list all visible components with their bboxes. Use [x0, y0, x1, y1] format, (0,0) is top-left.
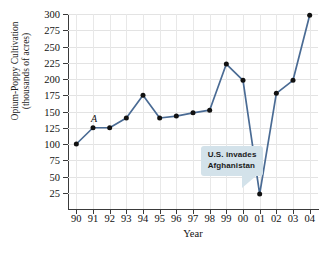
- x-axis-tick-label: 94: [138, 213, 149, 224]
- x-axis-tick-label: 03: [288, 213, 299, 224]
- us-invades-callout: U.S. invades Afghanistan: [201, 146, 264, 176]
- data-point: [141, 93, 146, 98]
- y-axis-tick-label: 100: [44, 139, 60, 150]
- y-axis-title: Opium-Poppy Cultivation (thousands of ac…: [10, 0, 42, 161]
- callout-line2: Afghanistan: [208, 161, 257, 172]
- x-axis-tick-label: 93: [121, 213, 132, 224]
- y-axis-tick-label: 125: [44, 122, 60, 133]
- x-axis-tick-label: 99: [221, 213, 232, 224]
- y-axis-tick-label: 175: [44, 90, 60, 101]
- data-point: [224, 62, 229, 67]
- data-point: [157, 116, 162, 121]
- x-axis-tick-label: 97: [188, 213, 199, 224]
- data-point: [291, 78, 296, 83]
- x-axis-tick-label: 01: [254, 213, 265, 224]
- y-axis-tick-label: 150: [44, 106, 60, 117]
- data-point: [124, 116, 129, 121]
- data-point: [257, 192, 262, 197]
- x-axis-tick-label: 96: [171, 213, 182, 224]
- x-axis-tick-label: 98: [204, 213, 215, 224]
- y-axis-title-line2: (thousands of acres): [21, 0, 32, 161]
- series-markers: [74, 13, 312, 197]
- y-axis-tick-label: 250: [44, 41, 60, 52]
- plot-area: 255075100125150175200225250275300 909192…: [68, 14, 318, 209]
- callout-line1: U.S. invades: [208, 150, 257, 161]
- data-point: [91, 125, 96, 130]
- y-axis-title-line1: Opium-Poppy Cultivation: [10, 22, 20, 121]
- y-axis-tick-label: 25: [50, 187, 61, 198]
- data-point: [241, 78, 246, 83]
- point-label-a: A: [91, 113, 97, 124]
- y-axis-tick-label: 50: [50, 171, 61, 182]
- data-point: [174, 114, 179, 119]
- data-point: [107, 125, 112, 130]
- y-axis-tick-label: 275: [44, 25, 60, 36]
- data-point: [274, 91, 279, 96]
- data-series: [68, 14, 318, 209]
- y-axis-tick-label: 200: [44, 74, 60, 85]
- series-line: [76, 15, 309, 194]
- x-axis-tick-label: 00: [238, 213, 249, 224]
- callout-tail: [242, 176, 256, 188]
- data-point: [74, 142, 79, 147]
- x-axis-tick-label: 90: [71, 213, 82, 224]
- data-point: [307, 13, 312, 18]
- x-axis-tick-label: 95: [154, 213, 165, 224]
- data-point: [191, 110, 196, 115]
- x-axis-tick-label: 91: [88, 213, 99, 224]
- data-point: [207, 108, 212, 113]
- x-axis-tick-label: 02: [271, 213, 282, 224]
- x-axis-tick-label: 92: [104, 213, 115, 224]
- y-axis-tick-label: 75: [50, 155, 61, 166]
- x-axis-tick-label: 04: [304, 213, 315, 224]
- y-axis-tick-label: 300: [44, 9, 60, 20]
- x-axis-title: Year: [68, 228, 318, 239]
- y-axis-tick-label: 225: [44, 57, 60, 68]
- opium-poppy-cultivation-line-chart: Opium-Poppy Cultivation (thousands of ac…: [0, 0, 325, 258]
